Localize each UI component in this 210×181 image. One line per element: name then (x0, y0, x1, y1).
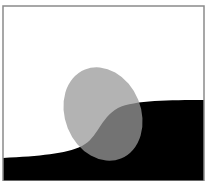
figure-canvas (0, 0, 210, 181)
